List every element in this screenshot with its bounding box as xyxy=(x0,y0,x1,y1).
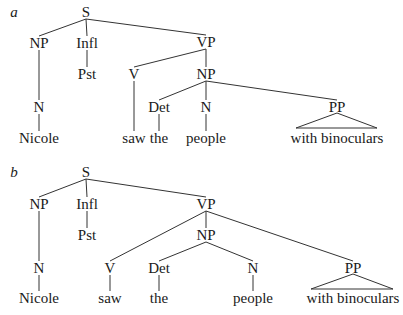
tree-tag-b: b xyxy=(10,165,18,180)
node-v: V xyxy=(129,67,140,82)
pp-triangle xyxy=(296,113,377,128)
node-det: Det xyxy=(148,261,170,276)
node-pp: PP xyxy=(345,261,362,276)
edge-VP-V xyxy=(134,49,206,67)
node-v: V xyxy=(105,261,116,276)
node-det: Det xyxy=(148,100,170,115)
node-infl: Infl xyxy=(76,36,98,51)
node-saw: saw xyxy=(122,131,145,146)
node-people: people xyxy=(233,291,273,306)
node-vp: VP xyxy=(196,197,215,212)
edge-NP2-Det xyxy=(159,242,206,261)
node-n2: N xyxy=(248,261,259,276)
node-n1: N xyxy=(34,100,45,115)
node-binoc: with binoculars xyxy=(291,131,384,146)
node-n2: N xyxy=(201,100,212,115)
node-np1: NP xyxy=(29,36,48,51)
node-saw: saw xyxy=(98,291,121,306)
edge-S-Infl xyxy=(86,179,87,197)
node-nicole: Nicole xyxy=(19,291,59,306)
node-vp: VP xyxy=(196,35,215,50)
edge-S-NP1 xyxy=(39,179,86,197)
edge-S-VP xyxy=(86,179,206,197)
node-np2: NP xyxy=(196,228,215,243)
node-n1: N xyxy=(34,261,45,276)
node-the: the xyxy=(150,291,168,306)
node-pp: PP xyxy=(329,100,346,115)
node-np2: NP xyxy=(196,67,215,82)
node-nicole: Nicole xyxy=(19,131,59,146)
node-the: the xyxy=(150,131,168,146)
node-pst: Pst xyxy=(78,67,96,82)
node-infl: Infl xyxy=(76,197,98,212)
edge-S-Infl xyxy=(86,19,87,36)
node-binoc: with binoculars xyxy=(307,291,400,306)
edge-VP-V xyxy=(110,211,206,261)
tree-tag-a: a xyxy=(10,5,18,20)
pp-triangle xyxy=(311,274,393,289)
edge-VP-PP xyxy=(206,211,353,261)
node-s: S xyxy=(82,5,90,20)
edge-NP2-PP xyxy=(206,81,337,100)
edge-NP2-N2 xyxy=(206,242,253,261)
edge-NP2-Det xyxy=(159,81,206,100)
node-pst: Pst xyxy=(78,228,96,243)
node-np1: NP xyxy=(29,197,48,212)
edge-S-NP1 xyxy=(39,19,86,36)
node-s: S xyxy=(82,165,90,180)
edge-S-VP xyxy=(86,19,206,35)
node-people: people xyxy=(186,131,226,146)
